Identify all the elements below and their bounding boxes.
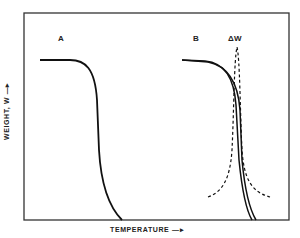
- x-axis-label: TEMPERATURE —▸: [110, 226, 184, 234]
- curve-b2: [182, 60, 256, 220]
- label-b: B: [193, 34, 199, 43]
- plot-frame: [24, 13, 289, 220]
- curve-a: [40, 60, 122, 220]
- tg-diagram: [0, 0, 300, 238]
- curve-delta-w: [208, 47, 270, 197]
- label-a: A: [58, 34, 64, 43]
- label-delta-w: ΔW: [228, 34, 242, 43]
- y-axis-label: WEIGHT, W —▸: [3, 82, 11, 140]
